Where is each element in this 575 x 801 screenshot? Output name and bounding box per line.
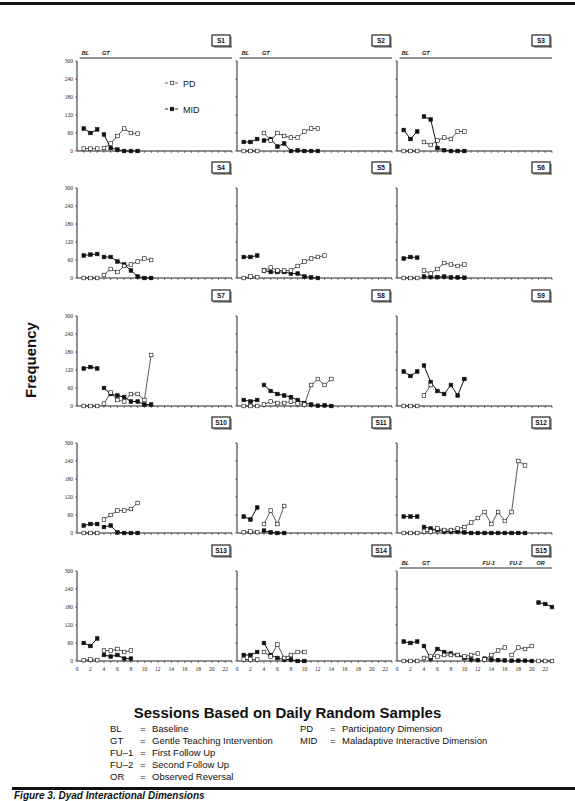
svg-text:20: 20 xyxy=(369,666,375,672)
svg-text:180: 180 xyxy=(65,221,74,227)
svg-text:60: 60 xyxy=(68,512,74,518)
panel-s14: 0246810121416182022S14 xyxy=(235,545,392,672)
svg-text:14: 14 xyxy=(169,666,175,672)
svg-text:240: 240 xyxy=(65,458,74,464)
svg-text:300: 300 xyxy=(65,440,74,446)
svg-text:20: 20 xyxy=(529,666,535,672)
svg-text:18: 18 xyxy=(516,666,522,672)
svg-text:240: 240 xyxy=(65,331,74,337)
svg-text:0: 0 xyxy=(70,148,73,154)
figure-caption: Figure 3. Dyad Interactional Dimensions xyxy=(14,790,205,801)
legend-row: FU–1=First Follow Up xyxy=(110,747,273,759)
svg-text:GT: GT xyxy=(262,50,270,56)
svg-text:60: 60 xyxy=(68,385,74,391)
panel-label: S5 xyxy=(377,164,385,171)
svg-text:22: 22 xyxy=(383,666,389,672)
panel-s3: S3BLGT xyxy=(395,35,552,153)
panel-label: S10 xyxy=(215,419,227,426)
svg-text:20: 20 xyxy=(209,666,215,672)
svg-text:22: 22 xyxy=(223,666,229,672)
x-axis-title: Sessions Based on Daily Random Samples xyxy=(0,704,575,721)
svg-text:FU-2: FU-2 xyxy=(510,560,522,566)
svg-text:6: 6 xyxy=(436,666,439,672)
panel-label: S8 xyxy=(377,292,385,299)
svg-text:2: 2 xyxy=(409,666,412,672)
svg-text:BL: BL xyxy=(402,50,410,56)
panel-s8: S8 xyxy=(235,290,392,408)
svg-text:16: 16 xyxy=(342,666,348,672)
small-multiples-chart: 060120180240300S1BLGTPDMIDS2BLGTS3BLGT06… xyxy=(0,0,575,700)
panel-label: S6 xyxy=(537,164,545,171)
svg-text:BL: BL xyxy=(82,50,90,56)
legend-row: GT=Gentle Teaching Intervention xyxy=(110,735,273,747)
svg-text:0: 0 xyxy=(236,666,239,672)
svg-text:12: 12 xyxy=(315,666,321,672)
panel-label: S4 xyxy=(217,164,225,171)
svg-text:120: 120 xyxy=(65,112,74,118)
panel-label: S7 xyxy=(217,292,225,299)
svg-text:120: 120 xyxy=(65,622,74,628)
svg-text:300: 300 xyxy=(65,313,74,319)
panel-label: S14 xyxy=(375,547,387,554)
panel-s4: 060120180240300S4 xyxy=(65,162,232,281)
panel-s6: S6 xyxy=(395,162,552,280)
panel-s10: 060120180240300S10 xyxy=(65,417,232,536)
svg-text:180: 180 xyxy=(65,476,74,482)
svg-text:180: 180 xyxy=(65,604,74,610)
panel-s11: S11 xyxy=(235,417,392,535)
svg-text:120: 120 xyxy=(65,239,74,245)
svg-text:240: 240 xyxy=(65,76,74,82)
legend-row: BL=Baseline xyxy=(110,723,273,735)
svg-text:4: 4 xyxy=(103,666,106,672)
svg-text:180: 180 xyxy=(65,94,74,100)
svg-text:10: 10 xyxy=(462,666,468,672)
panel-label: S12 xyxy=(535,419,547,426)
svg-text:300: 300 xyxy=(65,58,74,64)
svg-text:FU-1: FU-1 xyxy=(483,560,495,566)
y-axis-label: Frequency xyxy=(22,322,39,398)
svg-text:120: 120 xyxy=(65,367,74,373)
svg-text:14: 14 xyxy=(489,666,495,672)
svg-text:0: 0 xyxy=(70,658,73,664)
svg-text:8: 8 xyxy=(290,666,293,672)
svg-text:16: 16 xyxy=(182,666,188,672)
panel-s13: 0601201802403000246810121416182022S13 xyxy=(65,545,232,672)
svg-text:BL: BL xyxy=(242,50,250,56)
legend-row: FU–2=Second Follow Up xyxy=(110,759,273,771)
panel-s7: 060120180240300S7 xyxy=(65,290,232,409)
svg-text:2: 2 xyxy=(249,666,252,672)
svg-text:16: 16 xyxy=(502,666,508,672)
panel-label: S13 xyxy=(215,547,227,554)
panel-label: S1 xyxy=(217,37,225,44)
legend-row: PD=Participatory Dimension xyxy=(300,723,487,735)
svg-text:0: 0 xyxy=(396,666,399,672)
svg-text:60: 60 xyxy=(68,640,74,646)
svg-text:GT: GT xyxy=(102,50,110,56)
svg-text:2: 2 xyxy=(89,666,92,672)
legend-pd: PD xyxy=(183,79,196,89)
panel-s9: S9 xyxy=(395,290,552,408)
panel-s12: S12 xyxy=(395,417,552,535)
svg-text:120: 120 xyxy=(65,494,74,500)
panel-label: S11 xyxy=(375,419,387,426)
svg-text:4: 4 xyxy=(263,666,266,672)
svg-text:0: 0 xyxy=(70,530,73,536)
svg-text:10: 10 xyxy=(302,666,308,672)
panel-s2: S2BLGT xyxy=(235,35,392,153)
panel-label: S3 xyxy=(537,37,545,44)
panel-label: S9 xyxy=(537,292,545,299)
panel-label: S2 xyxy=(377,37,385,44)
svg-text:240: 240 xyxy=(65,586,74,592)
svg-text:180: 180 xyxy=(65,349,74,355)
svg-text:BL: BL xyxy=(402,560,410,566)
svg-text:GT: GT xyxy=(422,560,430,566)
svg-text:300: 300 xyxy=(65,568,74,574)
legend-row: MID=Maladaptive Interactive Dimension xyxy=(300,735,487,747)
svg-text:10: 10 xyxy=(142,666,148,672)
svg-text:240: 240 xyxy=(65,203,74,209)
svg-text:0: 0 xyxy=(70,275,73,281)
svg-text:OR: OR xyxy=(536,560,544,566)
panel-s15: 0246810121416182022S15BLGTFU-1FU-2OR xyxy=(395,545,554,672)
svg-text:12: 12 xyxy=(155,666,161,672)
svg-text:8: 8 xyxy=(450,666,453,672)
